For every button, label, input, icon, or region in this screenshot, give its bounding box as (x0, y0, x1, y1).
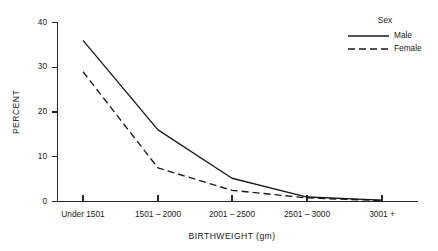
birthweight-percent-line-chart: 0 10 20 30 40 PERCENT Under 1501 1501 – … (0, 0, 438, 251)
y-axis-title: PERCENT (11, 90, 21, 135)
legend-label-male: Male (394, 30, 412, 40)
y-tick-label-20: 20 (38, 106, 48, 116)
legend-item-female[interactable]: Female (348, 43, 422, 53)
legend-item-male[interactable]: Male (348, 30, 412, 40)
y-tick-label-40: 40 (38, 17, 48, 27)
series-line-female (83, 72, 382, 201)
series-line-male (83, 40, 382, 200)
x-tick-label-1501-2000: 1501 – 2000 (135, 209, 182, 219)
y-axis: 0 10 20 30 40 PERCENT (11, 17, 58, 206)
legend-title: Sex (378, 15, 393, 25)
x-tick-label-under-1501: Under 1501 (61, 209, 105, 219)
x-axis: Under 1501 1501 – 2000 2001 – 2500 2501 … (58, 195, 419, 241)
chart-canvas: 0 10 20 30 40 PERCENT Under 1501 1501 – … (0, 0, 438, 251)
y-tick-label-10: 10 (38, 151, 48, 161)
legend: Sex Male Female (348, 15, 422, 53)
y-tick-label-0: 0 (42, 196, 47, 206)
x-axis-title: BIRTHWEIGHT (gm) (188, 231, 275, 241)
legend-label-female: Female (394, 43, 422, 53)
data-series-group (83, 40, 382, 200)
y-tick-label-30: 30 (38, 61, 48, 71)
x-tick-label-2001-2500: 2001 – 2500 (209, 209, 256, 219)
x-tick-label-3001-plus: 3001 + (369, 209, 395, 219)
x-tick-label-2501-3000: 2501 – 3000 (284, 209, 331, 219)
